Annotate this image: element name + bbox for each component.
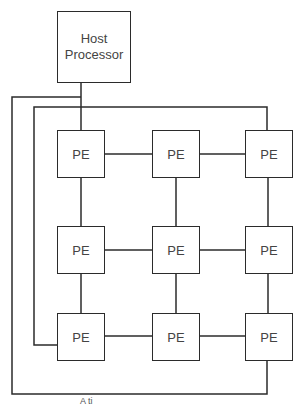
pe-label: PE <box>167 147 184 162</box>
caption-text: A ti <box>80 396 93 406</box>
pe-2-1: PE <box>152 313 200 361</box>
host-processor-box: Host Processor <box>57 11 131 83</box>
pe-1-0: PE <box>57 226 105 274</box>
pe-1-2: PE <box>245 226 293 274</box>
host-label-line1: Host <box>65 31 124 47</box>
pe-label: PE <box>72 147 89 162</box>
pe-label: PE <box>72 243 89 258</box>
pe-label: PE <box>167 243 184 258</box>
host-label-line2: Processor <box>65 47 124 63</box>
pe-1-1: PE <box>152 226 200 274</box>
pe-label: PE <box>260 243 277 258</box>
pe-label: PE <box>167 330 184 345</box>
pe-0-2: PE <box>245 130 293 178</box>
pe-0-1: PE <box>152 130 200 178</box>
pe-label: PE <box>260 147 277 162</box>
pe-2-0: PE <box>57 313 105 361</box>
pe-2-2: PE <box>245 313 293 361</box>
pe-label: PE <box>260 330 277 345</box>
pe-label: PE <box>72 330 89 345</box>
pe-0-0: PE <box>57 130 105 178</box>
